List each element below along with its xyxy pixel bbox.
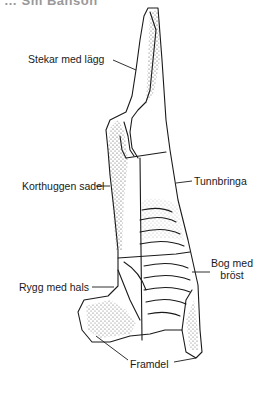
label-bog-line2: bröst xyxy=(210,269,254,281)
label-stekar-med-lagg: Stekar med lägg xyxy=(28,53,104,65)
leader-framdel-right xyxy=(174,358,196,362)
divider-bog xyxy=(118,252,190,258)
label-bog-med-brost: Bog med bröst xyxy=(210,257,254,281)
divider-vertical xyxy=(140,158,142,340)
label-tunnbringa: Tunnbringa xyxy=(194,175,247,187)
label-bog-line1: Bog med xyxy=(210,257,254,269)
label-framdel: Framdel xyxy=(130,358,169,370)
label-rygg-med-hals: Rygg med hals xyxy=(19,281,89,293)
leader-framdel-left xyxy=(96,336,128,360)
label-korthuggen-sadel: Korthuggen sadel xyxy=(22,180,104,192)
leader-stekar xyxy=(113,60,136,70)
leader-tunnbringa xyxy=(176,181,192,183)
